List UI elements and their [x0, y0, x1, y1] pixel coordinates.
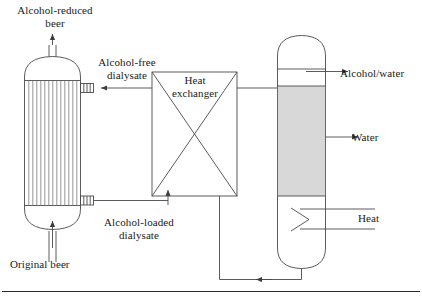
- alcohol-loaded-dialysate-stream: [94, 190, 169, 205]
- column-packed-section: [278, 69, 326, 196]
- bottoms-recycle-stream: [220, 269, 302, 280]
- label-heat-exchanger: Heat exchanger: [160, 74, 230, 101]
- process-flow-diagram: Alcohol-reduced beer Alcohol-free dialys…: [0, 0, 422, 298]
- dialyzer-bottom-nozzle: [81, 196, 94, 205]
- label-alcohol-loaded-dialysate: Alcohol-loaded dialysate: [89, 216, 189, 243]
- label-alcohol-water: Alcohol/water: [340, 67, 422, 80]
- label-water: Water: [352, 131, 402, 144]
- dialyzer-top-nozzle: [81, 84, 94, 93]
- label-alcohol-free-dialysate: Alcohol-free dialysate: [84, 56, 170, 83]
- column-reboiler-chevron: [291, 208, 309, 231]
- label-heat: Heat: [358, 212, 402, 225]
- original-beer-stream: [49, 221, 56, 262]
- label-original-beer: Original beer: [10, 258, 110, 271]
- diagram-canvas: [0, 0, 422, 298]
- alcohol-reduced-beer-stream: [49, 34, 56, 57]
- label-alcohol-reduced-beer: Alcohol-reduced beer: [6, 4, 104, 31]
- dialyzer-hollow-fibers: [29, 81, 77, 206]
